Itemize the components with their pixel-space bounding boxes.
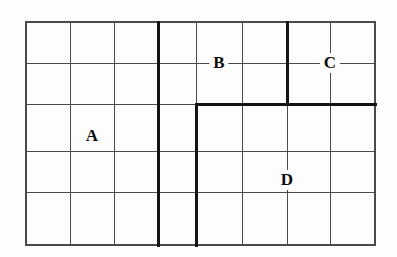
region-label-c: C (320, 53, 340, 73)
region-label-d: D (277, 170, 297, 190)
region-label-b: B (209, 53, 228, 73)
thick-divider-lines-group (158, 22, 375, 245)
grid-diagram-canvas (0, 0, 397, 257)
grid-region-figure: ABCD (0, 0, 397, 257)
region-label-a: A (82, 126, 102, 146)
